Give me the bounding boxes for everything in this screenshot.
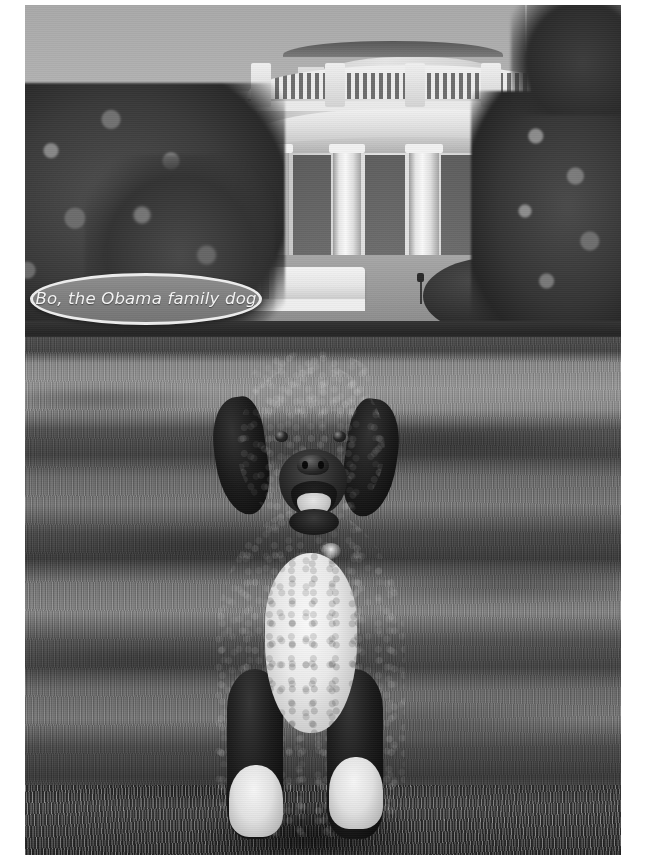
dog-topknot-curls: [249, 351, 375, 413]
caption-bubble: Bo, the Obama family dog: [30, 273, 262, 325]
lamp-post: [417, 273, 424, 282]
dog-bo: [193, 357, 423, 855]
dog-chin: [289, 509, 339, 535]
balustrade-pedestal: [405, 63, 425, 107]
dog-nostril: [302, 461, 308, 469]
caption-label: Bo, the Obama family dog: [35, 289, 256, 309]
dog-throat-marking: [321, 543, 341, 559]
dog-nostril: [318, 461, 324, 469]
photograph: Bo, the Obama family dog: [25, 5, 621, 855]
dog-chest-white-patch: [265, 553, 357, 733]
dog-paw-left: [229, 765, 283, 837]
balustrade-pedestal: [325, 63, 345, 107]
dog-nose: [297, 455, 329, 475]
dog-eye-left: [275, 431, 288, 442]
photo-page: Bo, the Obama family dog: [0, 0, 646, 862]
dog-eye-right: [333, 431, 346, 442]
tree-top-right: [511, 5, 621, 115]
dog-paw-right: [329, 757, 383, 829]
tree-right: [471, 91, 621, 341]
